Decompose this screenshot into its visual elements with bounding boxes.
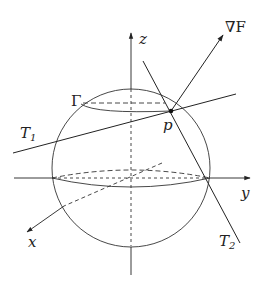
- x-axis-inner: [64, 163, 162, 206]
- z-axis-label: z: [138, 30, 147, 48]
- gamma-label: Γ: [71, 92, 81, 110]
- x-axis-label: x: [28, 233, 37, 251]
- tangent-t2-sub: 2: [228, 240, 235, 251]
- x-axis: [27, 206, 64, 232]
- y-axis-label: y: [240, 184, 250, 202]
- sphere-gradient-diagram: z y x ∇F Γ p T1 T2: [0, 0, 264, 289]
- point-p-label: p: [163, 116, 173, 134]
- tangent-line-t2: [143, 61, 240, 243]
- gradient-label: ∇F: [225, 18, 246, 36]
- tangent-t1-sub: 1: [30, 132, 36, 143]
- point-p-marker: [169, 109, 174, 114]
- tangent-t1-label: T1: [20, 124, 36, 143]
- gamma-curve-front: [81, 104, 171, 112]
- tangent-t2-label: T2: [219, 232, 235, 251]
